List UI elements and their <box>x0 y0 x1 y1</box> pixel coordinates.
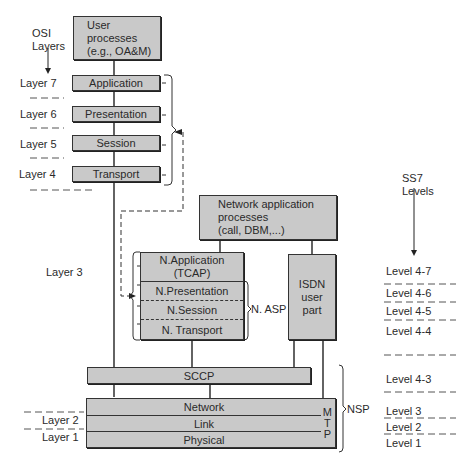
layer-7-label: Layer 7 <box>20 77 57 89</box>
level-2: Level 2 <box>386 421 421 433</box>
level-1: Level 1 <box>386 437 421 449</box>
n-session: N.Session <box>141 301 243 320</box>
mtp-network: Network <box>87 399 321 416</box>
nsp-label: NSP <box>347 403 370 415</box>
n-transport: N. Transport <box>141 320 243 339</box>
layer-3-label: Layer 3 <box>46 266 83 278</box>
isdn-user-part-box: ISDN user part <box>288 254 336 340</box>
level-4-5: Level 4-5 <box>386 305 431 317</box>
user-processes-box: User processes (e.g., OA&M) <box>73 16 161 60</box>
mtp-stack: Network Link Physical M T P <box>86 398 336 448</box>
osi-layers-header: OSI Layers <box>32 27 65 53</box>
network-application-processes-box: Network application processes (call, DBM… <box>199 195 337 240</box>
osi-application-box: Application <box>72 75 160 91</box>
n-presentation: N.Presentation <box>141 282 243 301</box>
mtp-link: Link <box>87 416 321 432</box>
osi-transport-box: Transport <box>72 166 160 182</box>
mtp-side-label: M T P <box>323 407 332 440</box>
asp-stack: N.Application (TCAP) N.Presentation N.Se… <box>140 252 244 340</box>
level-4-3: Level 4-3 <box>386 373 431 385</box>
osi-session-box: Session <box>72 135 160 151</box>
level-4-6: Level 4-6 <box>386 287 431 299</box>
level-4-7: Level 4-7 <box>386 265 431 277</box>
sccp-box: SCCP <box>87 367 311 384</box>
level-4-4: Level 4-4 <box>386 325 431 337</box>
layer-1-label: Layer 1 <box>42 431 79 443</box>
osi-presentation-box: Presentation <box>72 106 160 122</box>
n-application-tcap: N.Application (TCAP) <box>141 253 243 282</box>
level-3: Level 3 <box>386 405 421 417</box>
layer-5-label: Layer 5 <box>20 138 57 150</box>
layer-2-label: Layer 2 <box>42 414 79 426</box>
n-asp-label: N. ASP <box>251 303 286 315</box>
layer-6-label: Layer 6 <box>20 108 57 120</box>
mtp-physical: Physical <box>87 432 321 447</box>
ss7-levels-header: SS7 Levels <box>402 172 434 198</box>
layer-4-label: Layer 4 <box>19 168 56 180</box>
